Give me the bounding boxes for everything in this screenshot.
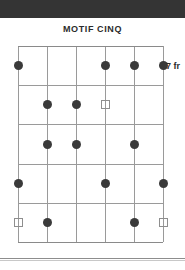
page-root: MOTIF CINQ 7 fr <box>0 0 185 270</box>
filled-marker-s2-f2 <box>43 100 52 109</box>
fret-line-3 <box>18 164 163 165</box>
filled-marker-s1-f4 <box>14 179 23 188</box>
fret-line-2 <box>18 124 163 125</box>
page-title: MOTIF CINQ <box>0 24 185 34</box>
filled-marker-s4-f1 <box>101 61 110 70</box>
open-marker-s6-f5 <box>159 218 168 227</box>
open-marker-s1-f5 <box>14 218 23 227</box>
filled-marker-s3-f2 <box>72 100 81 109</box>
string-line-6 <box>163 46 164 242</box>
filled-marker-s4-f4 <box>101 179 110 188</box>
footer-divider <box>0 258 185 259</box>
filled-marker-s1-f1 <box>14 61 23 70</box>
top-dark-bar <box>0 0 185 18</box>
string-line-4 <box>105 46 106 242</box>
filled-marker-s3-f3 <box>72 140 81 149</box>
fret-line-5 <box>18 242 163 243</box>
fret-line-0 <box>18 46 163 47</box>
filled-marker-s5-f5 <box>130 218 139 227</box>
open-marker-s4-f2 <box>101 100 110 109</box>
filled-marker-s5-f3 <box>130 140 139 149</box>
fret-line-1 <box>18 85 163 86</box>
filled-marker-s2-f5 <box>43 218 52 227</box>
filled-marker-s6-f4 <box>159 179 168 188</box>
fret-position-label: 7 fr <box>166 61 180 71</box>
footer-divider-shadow <box>0 260 185 261</box>
filled-marker-s5-f1 <box>130 61 139 70</box>
fretboard-grid <box>18 46 163 242</box>
string-line-1 <box>18 46 19 242</box>
fret-line-4 <box>18 203 163 204</box>
filled-marker-s2-f3 <box>43 140 52 149</box>
